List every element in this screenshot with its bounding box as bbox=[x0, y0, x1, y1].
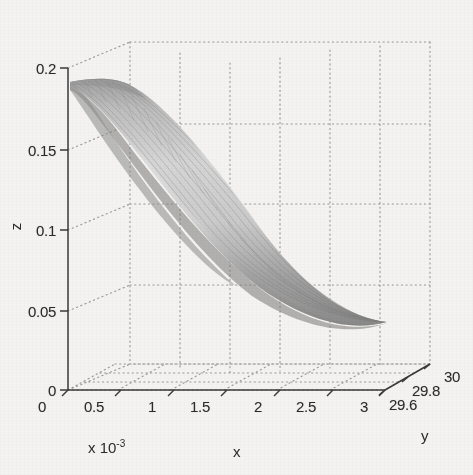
x-axis-label: x bbox=[233, 443, 241, 460]
y-axis-label: y bbox=[421, 427, 429, 444]
z-axis-label: z bbox=[7, 223, 24, 231]
z-tick-0.05: 0.05 bbox=[14, 303, 56, 320]
x-tick-3: 3 bbox=[360, 398, 368, 415]
x-tick-0: 0 bbox=[38, 398, 46, 415]
z-tick-0: 0 bbox=[38, 382, 56, 399]
x-tick-2.5: 2.5 bbox=[296, 398, 316, 415]
figure-3d-surface-plot: 0.2 0.15 0.1 0.05 0 0 0.5 1 1.5 2 2.5 3 … bbox=[0, 0, 473, 475]
x-tick-1: 1 bbox=[148, 398, 156, 415]
x-tick-2: 2 bbox=[254, 398, 262, 415]
z-tick-0.2: 0.2 bbox=[22, 60, 56, 77]
exponent-power: -3 bbox=[116, 438, 125, 449]
z-axis-ticks bbox=[60, 68, 68, 390]
floor-gridlines bbox=[68, 364, 430, 390]
exponent-prefix: x 10 bbox=[88, 439, 116, 456]
y-tick-30: 30 bbox=[444, 368, 460, 385]
y-tick-29.8: 29.8 bbox=[412, 382, 440, 399]
z-tick-0.15: 0.15 bbox=[14, 142, 56, 159]
z-tick-0.1: 0.1 bbox=[22, 222, 56, 239]
x-tick-1.5: 1.5 bbox=[190, 398, 210, 415]
x-axis-ticks bbox=[62, 390, 385, 396]
x-axis-exponent-label: x 10-3 bbox=[88, 438, 125, 456]
x-tick-0.5: 0.5 bbox=[84, 398, 104, 415]
